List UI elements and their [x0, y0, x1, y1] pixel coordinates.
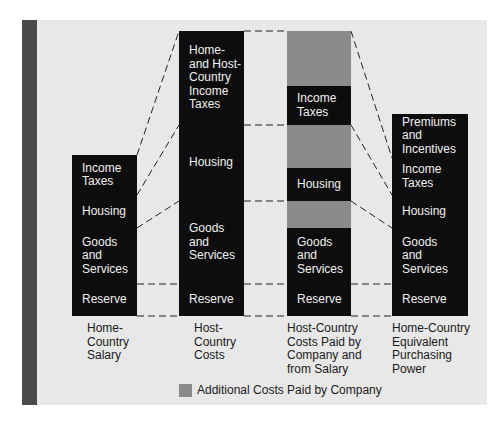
- segment-housing: Housing: [392, 195, 468, 228]
- segment-housing: Housing: [179, 125, 244, 201]
- segment-premiums-incentives: Premiums and Incentives: [392, 114, 468, 158]
- column-home-country-equivalent: Premiums and Incentives Income Taxes Hou…: [392, 114, 468, 316]
- segment-additional-cost: [287, 125, 351, 168]
- segment-label: Housing: [82, 205, 126, 219]
- segment-income-taxes: Home- and Host- Country Income Taxes: [179, 31, 244, 125]
- segment-label: Goods and Services: [402, 236, 448, 277]
- segment-label: Premiums and Incentives: [402, 116, 456, 157]
- legend: Additional Costs Paid by Company: [179, 383, 382, 397]
- caption-home-country-salary: Home- Country Salary: [87, 322, 129, 363]
- column-home-country-salary: Income Taxes Housing Goods and Services …: [72, 155, 137, 316]
- segment-reserve: Reserve: [287, 284, 351, 316]
- segment-goods-services: Goods and Services: [287, 228, 351, 284]
- segment-label: Housing: [402, 205, 446, 219]
- segment-income-taxes: Income Taxes: [287, 86, 351, 125]
- segment-additional-cost: [287, 201, 351, 228]
- segment-label: Home- and Host- Country Income Taxes: [189, 44, 241, 112]
- segment-label: Goods and Services: [189, 222, 235, 263]
- segment-label: Goods and Services: [297, 236, 343, 277]
- segment-additional-cost: [287, 31, 351, 86]
- segment-label: Goods and Services: [82, 236, 128, 277]
- segment-label: Reserve: [297, 293, 342, 307]
- segment-label: Reserve: [402, 293, 447, 307]
- segment-reserve: Reserve: [179, 284, 244, 316]
- segment-reserve: Reserve: [392, 284, 468, 316]
- segment-label: Housing: [297, 178, 341, 192]
- segment-goods-services: Goods and Services: [392, 228, 468, 284]
- segment-goods-services: Goods and Services: [72, 228, 137, 284]
- segment-income-taxes: Income Taxes: [392, 158, 468, 195]
- segment-label: Housing: [189, 156, 233, 170]
- column-host-country-costs-paid: Income Taxes Housing Goods and Services …: [287, 31, 351, 316]
- legend-swatch-gray: [179, 384, 192, 397]
- segment-label: Income Taxes: [402, 163, 441, 190]
- legend-label: Additional Costs Paid by Company: [197, 383, 382, 397]
- segment-goods-services: Goods and Services: [179, 201, 244, 284]
- segment-label: Reserve: [189, 293, 234, 307]
- segment-label: Income Taxes: [82, 162, 121, 189]
- segment-housing: Housing: [287, 168, 351, 201]
- segment-housing: Housing: [72, 195, 137, 228]
- segment-label: Income Taxes: [297, 92, 336, 119]
- caption-host-country-costs-paid: Host-Country Costs Paid by Company and f…: [287, 322, 362, 376]
- segment-income-taxes: Income Taxes: [72, 155, 137, 195]
- segment-reserve: Reserve: [72, 284, 137, 316]
- caption-host-country-costs: Host- Country Costs: [194, 322, 236, 363]
- caption-home-country-equivalent: Home-Country Equivalent Purchasing Power: [392, 322, 470, 376]
- segment-label: Reserve: [82, 293, 127, 307]
- column-host-country-costs: Home- and Host- Country Income Taxes Hou…: [179, 31, 244, 316]
